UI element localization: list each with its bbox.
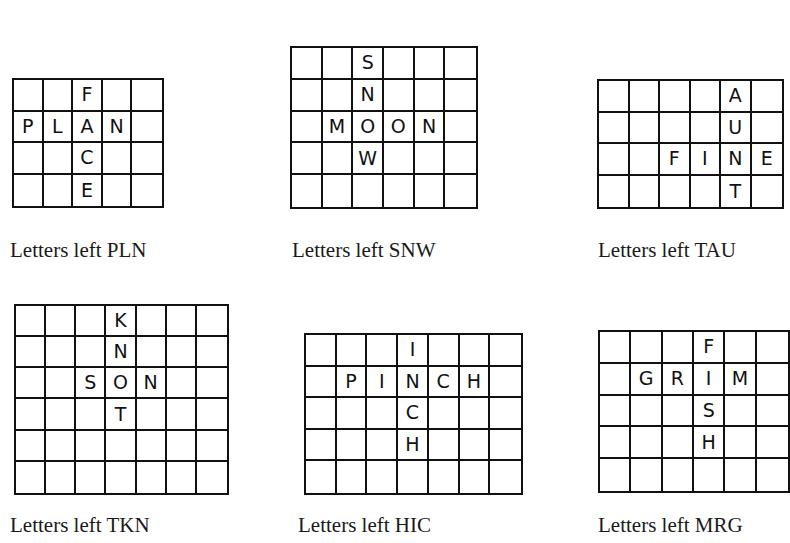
- grid-cell: [292, 80, 323, 112]
- grid-cell: [16, 431, 46, 462]
- crossword-grid-son-knot: KNSONT: [14, 304, 229, 495]
- grid-cell: I: [398, 335, 429, 367]
- grid-cell: [600, 396, 631, 428]
- grid-cell: [415, 143, 446, 175]
- puzzle-caption: Letters left MRG: [598, 513, 743, 538]
- grid-cell: [46, 431, 76, 462]
- grid-cell: [429, 461, 460, 493]
- grid-cell: [306, 430, 337, 462]
- grid-cell: [630, 81, 661, 113]
- puzzle-caption: Letters left SNW: [292, 238, 435, 263]
- grid-cell: [76, 306, 106, 337]
- grid-cell: [14, 175, 44, 207]
- grid-cell: [752, 176, 783, 208]
- grid-cell: [599, 113, 630, 145]
- grid-cell: [197, 337, 227, 368]
- grid-cell: [631, 332, 662, 364]
- grid-cell: [757, 396, 788, 428]
- grid-cell: T: [106, 399, 136, 430]
- grid-cell: [660, 113, 691, 145]
- grid-cell: [292, 48, 323, 80]
- grid-cell: [46, 368, 76, 399]
- grid-cell: [137, 306, 167, 337]
- grid-cell: N: [137, 368, 167, 399]
- grid-cell: [167, 462, 197, 493]
- grid-cell: [599, 81, 630, 113]
- puzzle-caption: Letters left HIC: [298, 513, 431, 538]
- grid-cell: R: [663, 364, 694, 396]
- grid-cell: H: [460, 367, 491, 399]
- grid-cell: [663, 396, 694, 428]
- grid-cell: [660, 81, 691, 113]
- grid-cell: [323, 80, 354, 112]
- grid-cell: [460, 335, 491, 367]
- grid-cell: [137, 431, 167, 462]
- grid-cell: N: [721, 144, 752, 176]
- grid-cell: [323, 143, 354, 175]
- grid-cell: [599, 144, 630, 176]
- grid-cell: O: [384, 112, 415, 144]
- grid-cell: [323, 48, 354, 80]
- grid-cell: [306, 335, 337, 367]
- crossword-grid-plan-face: FPLANCE: [12, 78, 164, 208]
- grid-cell: [630, 113, 661, 145]
- grid-cell: K: [106, 306, 136, 337]
- grid-cell: [691, 113, 722, 145]
- grid-cell: [137, 337, 167, 368]
- puzzle-caption: Letters left TKN: [10, 513, 150, 538]
- grid-cell: [460, 430, 491, 462]
- grid-cell: [460, 461, 491, 493]
- grid-cell: [46, 462, 76, 493]
- grid-cell: [44, 175, 74, 207]
- grid-cell: [76, 462, 106, 493]
- grid-cell: [44, 80, 74, 112]
- grid-cell: [367, 461, 398, 493]
- grid-cell: [600, 332, 631, 364]
- grid-cell: [600, 459, 631, 491]
- grid-cell: [76, 399, 106, 430]
- grid-cell: [337, 335, 368, 367]
- grid-cell: [76, 337, 106, 368]
- grid-cell: O: [106, 368, 136, 399]
- grid-cell: [306, 367, 337, 399]
- grid-cell: [46, 306, 76, 337]
- grid-cell: [460, 398, 491, 430]
- grid-cell: [445, 48, 476, 80]
- grid-cell: N: [353, 80, 384, 112]
- grid-cell: [337, 430, 368, 462]
- grid-cell: [725, 332, 756, 364]
- grid-cell: [600, 364, 631, 396]
- grid-cell: [137, 462, 167, 493]
- grid-cell: [415, 80, 446, 112]
- grid-cell: [323, 175, 354, 207]
- grid-cell: [752, 113, 783, 145]
- grid-cell: [46, 337, 76, 368]
- grid-cell: L: [44, 112, 74, 144]
- grid-cell: [694, 459, 725, 491]
- grid-cell: [16, 462, 46, 493]
- grid-cell: [490, 335, 521, 367]
- grid-cell: [167, 337, 197, 368]
- grid-cell: A: [721, 81, 752, 113]
- grid-cell: [292, 143, 323, 175]
- grid-cell: [103, 143, 133, 175]
- grid-cell: S: [76, 368, 106, 399]
- grid-cell: N: [106, 337, 136, 368]
- puzzle-caption: Letters left TAU: [598, 238, 736, 263]
- grid-cell: G: [631, 364, 662, 396]
- grid-cell: [132, 175, 162, 207]
- puzzle-caption: Letters left PLN: [10, 238, 146, 263]
- grid-cell: [167, 368, 197, 399]
- grid-cell: [384, 175, 415, 207]
- grid-cell: [725, 396, 756, 428]
- grid-cell: [367, 335, 398, 367]
- grid-cell: [630, 144, 661, 176]
- grid-cell: S: [353, 48, 384, 80]
- grid-cell: C: [429, 367, 460, 399]
- grid-cell: [306, 461, 337, 493]
- grid-cell: N: [415, 112, 446, 144]
- grid-cell: [663, 427, 694, 459]
- grid-cell: [757, 427, 788, 459]
- grid-cell: [660, 176, 691, 208]
- grid-cell: [14, 143, 44, 175]
